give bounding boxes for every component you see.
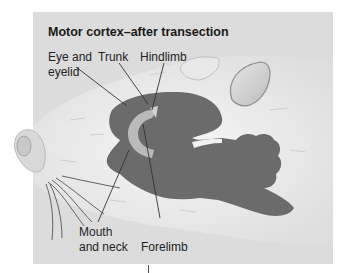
label-eye-and-eyelid: Eye and eyelid — [48, 50, 92, 80]
figure-title: Motor cortex–after transection — [48, 25, 229, 39]
label-mouth-and-neck: Mouth and neck — [79, 225, 128, 255]
label-hindlimb: Hindlimb — [140, 50, 187, 65]
label-forelimb: Forelimb — [141, 240, 188, 255]
bottom-tick-mark — [148, 265, 149, 273]
label-mouth-line1: Mouth — [79, 225, 128, 240]
label-trunk: Trunk — [98, 50, 128, 65]
rat-illustration — [0, 0, 344, 273]
label-eye-line2: eyelid — [48, 65, 92, 80]
label-eye-line1: Eye and — [48, 50, 92, 65]
label-mouth-line2: and neck — [79, 240, 128, 255]
nose-icon — [17, 136, 31, 156]
